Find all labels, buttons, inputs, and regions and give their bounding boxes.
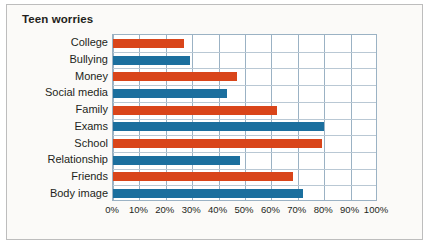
gridline-vertical — [351, 35, 352, 200]
gridline-vertical — [324, 35, 325, 200]
bar-social-media[interactable] — [113, 89, 227, 98]
gridline-horizontal — [113, 135, 376, 136]
bar-bullying[interactable] — [113, 56, 190, 65]
category-label-relationship: Relationship — [8, 153, 108, 165]
gridline-horizontal — [113, 185, 376, 186]
gridline-horizontal — [113, 68, 376, 69]
chart-card: Teen worries CollegeBullyingMoneySocial … — [6, 4, 423, 240]
category-label-body-image: Body image — [8, 187, 108, 199]
category-label-family: Family — [8, 103, 108, 115]
bar-relationship[interactable] — [113, 156, 240, 165]
page-title: Teen worries — [22, 13, 93, 25]
gridline-horizontal — [113, 52, 376, 53]
category-label-bullying: Bullying — [8, 53, 108, 65]
plot-area — [112, 34, 377, 201]
x-tick-30: 30% — [182, 204, 201, 215]
x-tick-80: 80% — [314, 204, 333, 215]
bar-money[interactable] — [113, 72, 237, 81]
x-tick-90: 90% — [340, 204, 359, 215]
x-axis-tick-labels: 0%10%20%30%40%50%60%70%80%90%100% — [112, 204, 377, 220]
x-tick-100: 100% — [364, 204, 388, 215]
category-label-school: School — [8, 137, 108, 149]
x-tick-70: 70% — [287, 204, 306, 215]
bar-exams[interactable] — [113, 122, 324, 131]
x-tick-20: 20% — [155, 204, 174, 215]
x-tick-0: 0% — [105, 204, 119, 215]
category-label-social-media: Social media — [8, 86, 108, 98]
x-tick-10: 10% — [129, 204, 148, 215]
category-label-exams: Exams — [8, 120, 108, 132]
gridline-horizontal — [113, 102, 376, 103]
category-label-friends: Friends — [8, 170, 108, 182]
category-label-college: College — [8, 36, 108, 48]
bar-body-image[interactable] — [113, 189, 303, 198]
gridline-horizontal — [113, 169, 376, 170]
gridline-horizontal — [113, 152, 376, 153]
x-tick-40: 40% — [208, 204, 227, 215]
bar-school[interactable] — [113, 139, 322, 148]
gridline-horizontal — [113, 119, 376, 120]
category-label-money: Money — [8, 70, 108, 82]
bar-family[interactable] — [113, 106, 277, 115]
x-tick-50: 50% — [234, 204, 253, 215]
bar-friends[interactable] — [113, 172, 293, 181]
gridline-horizontal — [113, 85, 376, 86]
x-tick-60: 60% — [261, 204, 280, 215]
category-axis-labels: CollegeBullyingMoneySocial mediaFamilyEx… — [7, 34, 108, 201]
bar-college[interactable] — [113, 39, 184, 48]
gridline-vertical — [298, 35, 299, 200]
